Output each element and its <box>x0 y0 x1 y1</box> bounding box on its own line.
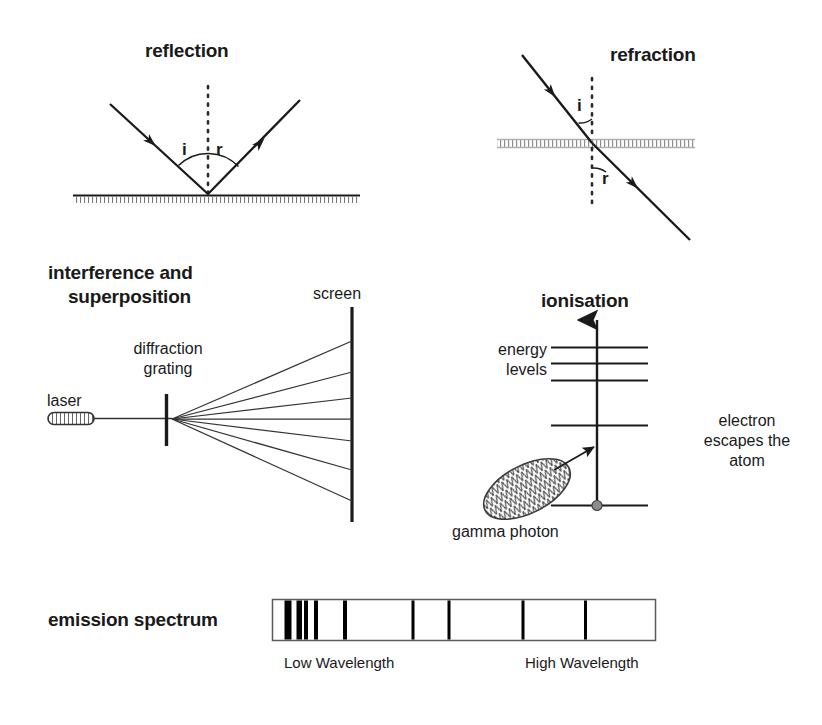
emission-spectrum-diagram <box>273 600 656 641</box>
reflection-incident-ray <box>110 104 208 194</box>
spectral-line <box>304 601 308 640</box>
electron-marker <box>592 501 602 511</box>
reflection-surface-hatch <box>73 197 360 203</box>
reflection-reflected-arrowhead <box>252 136 267 151</box>
spectral-line <box>285 601 292 640</box>
refraction-refracted-ray <box>592 143 690 240</box>
spectral-line <box>448 601 451 640</box>
spectral-line <box>522 601 525 640</box>
spectral-line <box>584 601 587 640</box>
spectral-line <box>314 601 318 640</box>
photon-absorption-arrow <box>554 447 594 470</box>
refraction-heading: refraction <box>610 44 696 66</box>
laser-body <box>48 413 94 425</box>
diffraction-ray-minus3 <box>172 419 352 501</box>
electron-escape-label-line3: atom <box>683 452 811 471</box>
gamma-photon-label: gamma photon <box>452 523 559 542</box>
interference-heading-line1: interference and <box>48 262 193 284</box>
diffraction-ray-minus2 <box>172 419 352 470</box>
refraction-angle-i-label: i <box>577 96 582 116</box>
diffraction-grating-label-line2: grating <box>108 360 228 379</box>
spectral-line <box>412 601 415 640</box>
electron-escape-label-line1: electron <box>683 412 811 431</box>
reflection-angle-i-label: i <box>182 140 187 160</box>
high-wavelength-label: High Wavelength <box>525 654 639 672</box>
ionisation-heading: ionisation <box>541 290 629 312</box>
refraction-angle-i-arc <box>579 119 593 123</box>
energy-levels-label-line1: energy <box>447 341 547 360</box>
physics-diagram-page: reflection i r refraction i r interferen… <box>0 0 822 725</box>
laser-label: laser <box>47 392 82 411</box>
diffraction-ray-plus1 <box>172 398 352 419</box>
electron-escape-label-line2: escapes the <box>683 432 811 451</box>
interference-heading-line2: superposition <box>68 286 191 308</box>
refraction-diagram <box>497 55 695 240</box>
diffraction-ray-plus2 <box>172 372 352 419</box>
emission-spectrum-heading: emission spectrum <box>48 609 218 631</box>
diffraction-grating-label-line1: diffraction <box>108 340 228 359</box>
gamma-photon-ellipse <box>474 446 580 531</box>
reflection-angle-r-label: r <box>216 140 223 160</box>
reflection-heading: reflection <box>145 40 229 62</box>
screen-label: screen <box>313 285 361 304</box>
low-wavelength-label: Low Wavelength <box>284 654 394 672</box>
diffraction-ray-minus1 <box>172 419 352 441</box>
spectral-line <box>343 601 347 640</box>
refraction-angle-r-label: r <box>602 169 609 189</box>
emission-spectrum-band <box>273 600 656 641</box>
energy-levels-label-line2: levels <box>447 361 547 380</box>
spectral-line <box>297 601 303 640</box>
